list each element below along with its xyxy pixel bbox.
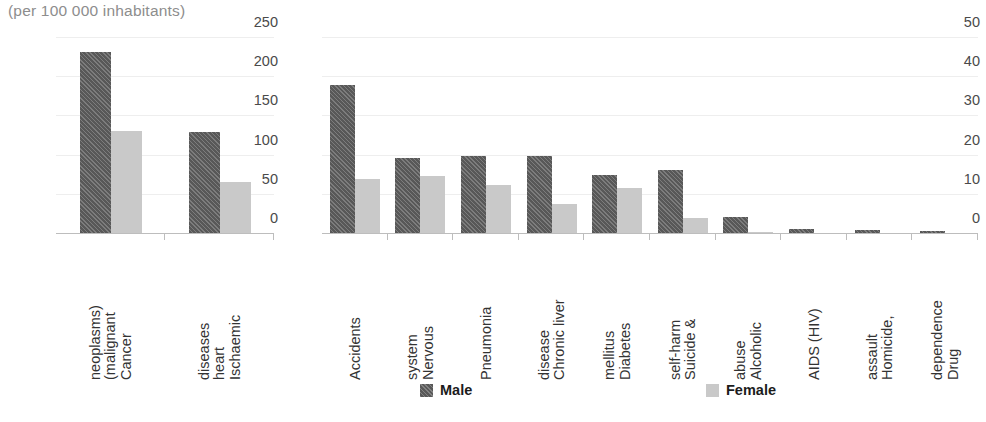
y-tick-label: 50 [948,14,980,30]
bar-pair [584,38,650,234]
bar-female [617,188,642,234]
bar-male [527,156,552,234]
category-label-lines: Chronic liverdisease [537,242,567,380]
category-row-right: AccidentsNervoussystemPneumoniaChronic l… [322,240,978,380]
category-label-lines: Accidents [348,242,363,380]
bar-pair [519,38,585,234]
category-label-lines: Pneumonia [479,242,494,380]
bar-group [388,38,454,234]
bar-male [723,217,748,234]
x-axis-line-right [322,233,978,234]
category-label: Drugdependence [912,240,978,380]
chart-legend: Male Female [0,382,986,408]
bar-male [189,132,220,234]
category-label-line: mellitus [602,242,617,380]
bar-pair [56,38,165,234]
bar-pair [322,38,388,234]
bar-male [395,158,420,234]
chart-panel-lower-rate-causes: 01020304050 [286,38,980,234]
legend-item-female: Female [706,382,776,398]
category-label-line: (malignant [103,242,118,380]
bar-groups-right [322,38,978,234]
bar-pair [453,38,519,234]
category-labels-left: Cancer(malignantneoplasms)Ischaemicheart… [56,240,274,380]
category-label-lines: Nervoussystem [405,242,435,380]
category-label: Nervoussystem [388,240,454,380]
category-label-lines: Ischaemicheartdiseases [197,242,243,380]
bar-group [847,38,913,234]
category-label-line: disease [537,242,552,380]
category-label-line: Suicide & [683,242,698,380]
plot-area-right [322,38,978,234]
category-label-lines: Cancer(malignantneoplasms) [88,242,134,380]
category-label-line: Accidents [348,242,363,380]
category-label-line: assault [865,242,880,380]
bar-pair [716,38,782,234]
category-label-line: Cancer [119,242,134,380]
category-label-line: Chronic liver [552,242,567,380]
category-label-lines: Diabetesmellitus [602,242,632,380]
legend-item-male: Male [420,382,472,398]
plot-area-left [56,38,274,234]
category-label: Alcoholicabuse [716,240,782,380]
legend-swatch-male-icon [420,384,433,397]
chart-panel-high-rate-causes: 050100150200250 [10,38,278,234]
bar-female [355,179,380,234]
y-tick-label: 250 [236,14,278,30]
category-row-left: Cancer(malignantneoplasms)Ischaemicheart… [56,240,274,380]
category-label: Homicide,assault [847,240,913,380]
category-label-lines: Alcoholicabuse [733,242,763,380]
category-label-line: abuse [733,242,748,380]
x-axis-line-left [56,233,274,234]
category-label-lines: Drugdependence [930,242,960,380]
bar-group [650,38,716,234]
bar-male [461,156,486,234]
legend-swatch-female-icon [706,384,719,397]
category-label-line: system [405,242,420,380]
category-label-line: AIDS (HIV) [807,242,822,380]
bar-group [912,38,978,234]
category-label-line: Homicide, [880,242,895,380]
bar-pair [912,38,978,234]
category-label-line: neoplasms) [88,242,103,380]
bar-pair [388,38,454,234]
category-label-line: Ischaemic [228,242,243,380]
bar-female [486,185,511,234]
bar-group [519,38,585,234]
bar-group [453,38,519,234]
category-label: Accidents [322,240,388,380]
category-label-lines: AIDS (HIV) [807,242,822,380]
bar-group [716,38,782,234]
bar-female [111,131,142,234]
category-label: Ischaemicheartdiseases [165,240,274,380]
bar-group [165,38,274,234]
category-label-lines: Homicide,assault [865,242,895,380]
bar-group [584,38,650,234]
category-label: Pneumonia [453,240,519,380]
legend-label-male: Male [440,382,472,398]
category-label-line: dependence [930,242,945,380]
bar-female [420,176,445,234]
bar-groups-left [56,38,274,234]
category-label: AIDS (HIV) [781,240,847,380]
bar-pair [165,38,274,234]
bar-male [80,52,111,234]
category-label: Cancer(malignantneoplasms) [56,240,165,380]
bar-female [220,182,251,234]
category-label-lines: Suicide &self-harm [668,242,698,380]
bar-female [552,204,577,234]
category-label: Diabetesmellitus [584,240,650,380]
category-label-line: self-harm [668,242,683,380]
category-label-line: Drug [946,242,961,380]
category-label: Suicide &self-harm [650,240,716,380]
category-label: Chronic liverdisease [519,240,585,380]
category-label-line: Pneumonia [479,242,494,380]
category-label-line: Diabetes [618,242,633,380]
category-label-line: Alcoholic [749,242,764,380]
bar-pair [650,38,716,234]
chart-title: (per 100 000 inhabitants) [8,2,185,20]
chart-figure: (per 100 000 inhabitants) 05010015020025… [0,0,986,422]
category-label-line: Nervous [421,242,436,380]
category-label-line: diseases [197,242,212,380]
bar-pair [847,38,913,234]
